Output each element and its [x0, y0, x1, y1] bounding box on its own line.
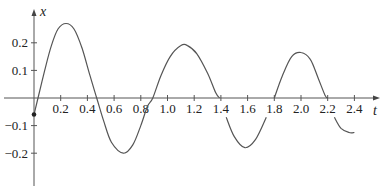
x-tick-label: 1.0: [159, 101, 175, 116]
y-axis-label: x: [39, 4, 47, 19]
x-tick-label: 2.4: [346, 101, 363, 116]
y-tick-label: 0.1: [12, 63, 28, 78]
curve-segment: [34, 24, 220, 154]
x-tick-label: 1.4: [213, 101, 230, 116]
x-tick-label: 0.4: [79, 101, 96, 116]
x-axis-arrow-icon: [373, 96, 380, 101]
curve-segment: [226, 117, 266, 147]
x-tick-label: 0.2: [53, 101, 69, 116]
x-tick-label: 1.8: [266, 101, 282, 116]
start-point-marker: [32, 112, 37, 117]
x-tick-label: 1.2: [186, 101, 202, 116]
y-tick-label: 0.2: [12, 35, 28, 50]
y-axis-arrow-icon: [32, 9, 37, 16]
curve-segment: [334, 117, 354, 133]
y-tick-label: −0.1: [4, 118, 28, 133]
x-tick-label: 1.6: [239, 101, 256, 116]
x-tick-label: 0.6: [106, 101, 123, 116]
curve-segment: [274, 52, 327, 98]
line-chart: t x 0.20.40.60.81.01.21.41.61.82.02.22.4…: [0, 0, 386, 192]
x-tick-label: 2.0: [293, 101, 309, 116]
y-tick-label: −0.2: [4, 146, 28, 161]
x-tick-label: 2.2: [320, 101, 336, 116]
data-series: [34, 24, 354, 154]
x-axis-label: t: [373, 103, 378, 118]
